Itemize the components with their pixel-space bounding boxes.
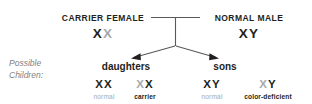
offspring-cell: XY normal [190, 78, 234, 101]
allele-female-2: X [103, 26, 113, 41]
allele-offspring-1-2: X [145, 78, 154, 90]
allele-offspring-3-2: Y [268, 78, 277, 90]
parent-label-female: CARRIER FEMALE [57, 13, 149, 23]
offspring-genotype: XY [190, 78, 234, 91]
parent-genotype-male: XY [203, 26, 295, 41]
offspring-cell: XY color-deficient [230, 78, 306, 101]
sons-arrow-shaft [176, 46, 216, 58]
allele-male-1: X [239, 26, 249, 41]
offspring-phenotype: normal [82, 92, 126, 101]
allele-offspring-0-1: X [95, 78, 104, 90]
allele-female-1: X [93, 26, 103, 41]
offspring-genotype: XX [122, 78, 168, 91]
group-heading-daughters: daughters [78, 61, 174, 72]
offspring-phenotype: carrier [122, 92, 168, 101]
offspring-cell: XX normal [82, 78, 126, 101]
allele-offspring-0-2: X [104, 78, 113, 90]
offspring-genotype: XX [82, 78, 126, 91]
parent-genotype-female: XX [57, 26, 149, 41]
daughters-arrow-head [131, 53, 141, 60]
offspring-cell: XX carrier [122, 78, 168, 101]
daughters-arrow-shaft [134, 46, 175, 58]
allele-offspring-3-1: X [259, 78, 268, 90]
group-heading-sons: sons [190, 61, 260, 72]
allele-offspring-2-2: Y [212, 78, 221, 90]
allele-offspring-2-1: X [203, 78, 212, 90]
allele-offspring-1-1: X [136, 78, 145, 90]
offspring-phenotype: normal [190, 92, 234, 101]
offspring-phenotype: color-deficient [230, 92, 306, 101]
caption-line-2: Children: [9, 70, 71, 82]
pedigree-cross-diagram: CARRIER FEMALE XX NORMAL MALE XY Possibl… [0, 0, 312, 104]
allele-male-2: Y [249, 26, 259, 41]
possible-children-caption: Possible Children: [9, 58, 71, 81]
offspring-genotype: XY [230, 78, 306, 91]
caption-line-1: Possible [9, 58, 71, 70]
parent-label-male: NORMAL MALE [203, 13, 295, 23]
sons-arrow-head [209, 53, 219, 60]
